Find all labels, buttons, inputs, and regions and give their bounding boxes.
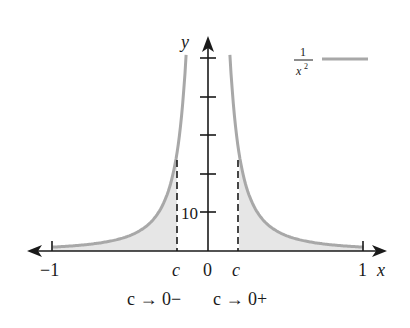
legend-exponent: 2 <box>304 62 308 71</box>
y-axis-label: y <box>179 32 189 52</box>
legend-denominator: x <box>295 64 302 78</box>
x-tick-label-zero: 0 <box>203 260 212 280</box>
legend-numerator: 1 <box>300 45 306 59</box>
left-limit-annotation: c → 0− <box>127 289 181 309</box>
improper-integral-diagram: y 10 −1 c 0 c 1 x c → 0− c → 0+ 1 x 2 <box>0 0 410 328</box>
x-tick-label-one: 1 <box>358 260 367 280</box>
x-tick-label-minus-one: −1 <box>40 260 59 280</box>
x-tick-label-c-right: c <box>232 260 240 280</box>
y-tick-label-10: 10 <box>181 204 198 223</box>
right-limit-annotation: c → 0+ <box>213 289 267 309</box>
x-axis-label: x <box>376 260 385 280</box>
legend: 1 x 2 <box>294 45 368 78</box>
shaded-area-left <box>53 154 177 252</box>
x-tick-label-c-left: c <box>172 260 180 280</box>
shaded-area-right <box>239 154 363 252</box>
